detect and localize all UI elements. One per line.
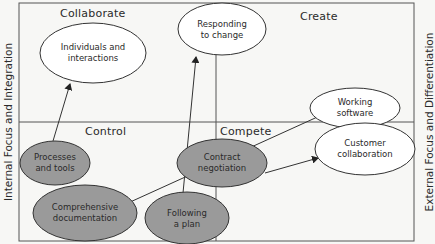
node-label-line: interactions [61, 53, 126, 64]
node-label-line: Contract [198, 152, 246, 163]
node-label-responding: Responding to change [197, 19, 247, 41]
node-label-line: collaboration [337, 149, 392, 160]
node-label-plan: Following a plan [167, 208, 207, 230]
node-label-line: Customer [337, 138, 392, 149]
node-label-line: Following [167, 208, 207, 219]
node-label-line: documentation [52, 213, 118, 224]
node-label-contract: Contract negotiation [198, 152, 246, 174]
node-label-line: Processes [34, 152, 76, 163]
node-label-processes: Processes and tools [34, 152, 76, 174]
axis-label-right: External Focus and Differentiation [423, 27, 435, 217]
quadrant-label-compete: Compete [220, 125, 271, 138]
quadrant-label-control: Control [85, 125, 126, 138]
node-label-line: negotiation [198, 163, 246, 174]
node-label-line: Working [337, 97, 374, 108]
arrow-contract-to-customer [265, 158, 318, 173]
axis-label-left: Internal Focus and Integration [2, 32, 14, 212]
node-label-documentation: Comprehensive documentation [52, 202, 118, 224]
node-label-line: software [337, 108, 374, 119]
quadrant-label-collaborate: Collaborate [60, 7, 126, 20]
arrow-processes-to-individuals [53, 84, 70, 141]
node-label-customer: Customer collaboration [337, 138, 392, 160]
node-label-line: and tools [34, 163, 76, 174]
node-label-line: a plan [167, 219, 207, 230]
node-label-individuals: Individuals and interactions [61, 42, 126, 64]
node-label-line: Individuals and [61, 42, 126, 53]
node-label-line: Comprehensive [52, 202, 118, 213]
node-label-working: Working software [337, 97, 374, 119]
quadrant-label-create: Create [300, 10, 338, 23]
node-label-line: Responding [197, 19, 247, 30]
node-label-line: to change [197, 30, 247, 41]
